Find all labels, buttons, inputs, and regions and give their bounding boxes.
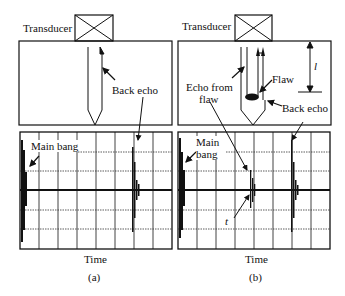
main-bang-label-a: Main bang	[31, 140, 78, 152]
transducer-icon	[235, 15, 272, 41]
caption-a: (a)	[88, 271, 100, 283]
main-bang-signal	[179, 138, 185, 238]
back-echo-signal	[291, 140, 299, 232]
x-axis-label-b: Time	[245, 253, 268, 265]
main-bang-signal	[21, 140, 27, 242]
beam-path	[88, 47, 104, 125]
time-label-t: t	[225, 215, 228, 227]
panel-b	[178, 15, 331, 249]
depth-dimension	[298, 42, 322, 92]
flaw-label: Flaw	[272, 73, 294, 85]
flaw-shape	[245, 94, 259, 101]
transducer-label-b: Transducer	[182, 20, 231, 32]
flaw-echo-signal	[250, 170, 255, 208]
transducer-icon	[75, 15, 113, 41]
main-bang-label-b-line2: bang	[196, 148, 217, 160]
x-axis-label-a: Time	[84, 253, 107, 265]
depth-label: l	[314, 60, 317, 72]
panel-a	[19, 15, 172, 249]
transducer-label-a: Transducer	[23, 22, 72, 34]
main-bang-label-b-line1: Main	[196, 136, 219, 148]
test-block	[19, 41, 172, 125]
caption-b: (b)	[249, 271, 262, 283]
echo-from-flaw-label-line1: Echo from	[186, 81, 233, 93]
back-echo-label-a: Back echo	[112, 84, 158, 96]
echo-from-flaw-label-line2: flaw	[199, 93, 219, 105]
back-echo-label-b: Back echo	[282, 102, 328, 114]
